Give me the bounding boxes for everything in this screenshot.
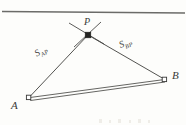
scan-speckle <box>99 119 102 123</box>
scan-speckle <box>118 119 121 123</box>
scan-speckle <box>138 119 141 123</box>
diagram-svg <box>0 0 186 125</box>
station-label-b: B <box>172 70 179 81</box>
point-label-p: P <box>84 17 90 27</box>
baseline-ab <box>30 80 165 101</box>
horizontal-rule <box>2 12 185 14</box>
figure-canvas: A B P SAP SBP <box>0 0 186 125</box>
scan-speckle <box>148 120 150 123</box>
station-marker-b <box>162 77 166 81</box>
line-ap <box>30 35 89 97</box>
scan-speckle <box>129 120 131 123</box>
point-marker-p <box>85 32 90 37</box>
station-marker-a <box>26 95 30 99</box>
scan-speckle <box>109 120 111 123</box>
station-label-a: A <box>11 100 18 111</box>
